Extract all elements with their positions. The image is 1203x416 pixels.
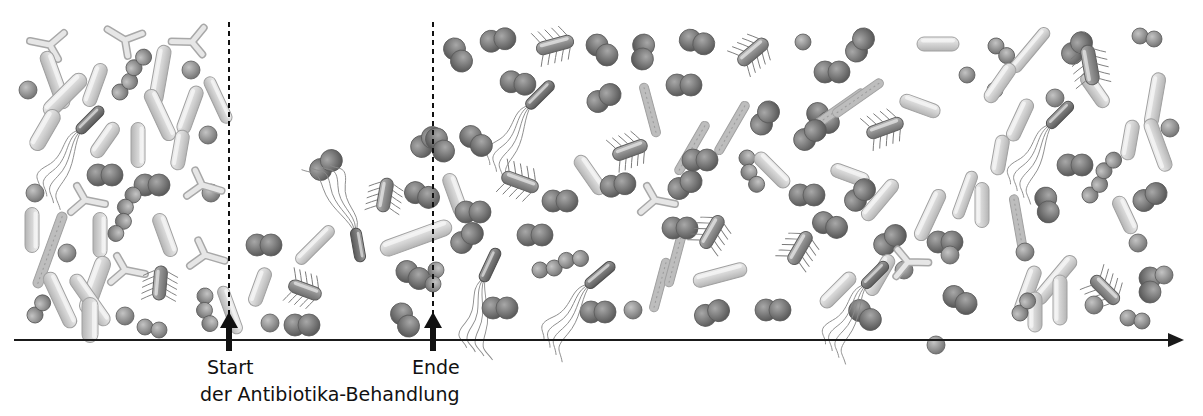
coccus-icon xyxy=(624,301,642,319)
diplococcus-icon xyxy=(939,281,981,318)
coccus-icon xyxy=(795,34,811,50)
fimbriated-bacterium-icon xyxy=(727,27,778,78)
bacillus-rod-icon xyxy=(131,123,145,168)
bacillus-rod-icon xyxy=(898,92,942,120)
diplococcus-icon xyxy=(583,79,625,116)
coccus-icon xyxy=(19,81,37,99)
bacillus-rod-icon xyxy=(1009,194,1027,250)
fimbriated-bacterium-icon xyxy=(365,175,406,216)
diplococcus-icon xyxy=(305,145,347,185)
bacillus-rod-icon xyxy=(202,75,234,125)
streptococcus-chain-icon xyxy=(1132,28,1162,47)
coccus-icon xyxy=(261,314,279,332)
diplococcus-icon xyxy=(446,218,488,258)
diplococcus-icon xyxy=(841,24,878,66)
coccus-icon xyxy=(58,244,76,262)
diplococcus-icon xyxy=(439,34,476,76)
diplococcus-icon xyxy=(755,299,791,321)
diplococcus-icon xyxy=(581,29,622,70)
streptococcus-chain-icon xyxy=(137,319,167,338)
bifidobacterium-icon xyxy=(111,256,145,282)
bacillus-rod-icon xyxy=(692,261,749,289)
streptococcus-chain-icon xyxy=(1120,310,1150,329)
diplococcus-icon xyxy=(789,184,825,206)
coccus-icon xyxy=(959,67,975,83)
fimbriated-bacterium-icon xyxy=(531,23,578,67)
coccus-icon xyxy=(927,336,945,354)
coccus-icon xyxy=(1129,234,1147,252)
fimbriated-bacterium-icon xyxy=(606,127,653,173)
bacillus-rod-icon xyxy=(378,218,454,259)
streptococcus-chain-icon xyxy=(106,184,144,245)
diplococcus-icon xyxy=(666,74,702,96)
diplococcus-icon xyxy=(455,201,491,223)
coccus-icon xyxy=(1155,266,1173,284)
treatment-caption: der Antibiotika-Behandlung xyxy=(200,383,460,405)
bacillus-rod-icon xyxy=(151,211,180,258)
bacillus-rod-icon xyxy=(1053,275,1067,325)
coccus-icon xyxy=(199,126,217,144)
diplococcus-icon xyxy=(1057,154,1093,176)
diplococcus-icon xyxy=(691,297,732,330)
diplococcus-icon xyxy=(809,209,850,242)
diplococcus-icon xyxy=(284,314,320,336)
end-arrow-icon xyxy=(424,312,442,351)
coccus-icon xyxy=(1085,296,1103,314)
bacillus-rod-icon xyxy=(917,37,959,51)
start-label: Start xyxy=(207,356,253,378)
fimbriated-bacterium-icon xyxy=(860,105,909,151)
fimbriated-bacterium-icon xyxy=(141,265,179,303)
bacillus-rod-icon xyxy=(293,223,337,267)
bacillus-rod-icon xyxy=(82,298,98,343)
coccus-icon xyxy=(116,307,134,325)
fimbriated-bacterium-icon xyxy=(282,267,327,312)
diplococcus-icon xyxy=(677,27,717,58)
bifidobacterium-icon xyxy=(101,22,142,58)
diplococcus-icon xyxy=(580,301,616,323)
bacillus-rod-icon xyxy=(27,107,63,154)
streptococcus-chain-icon xyxy=(25,292,53,327)
bacteria-diagram xyxy=(0,0,1203,416)
bifidobacterium-icon xyxy=(190,240,226,269)
coccus-icon xyxy=(182,61,200,79)
coccus-icon xyxy=(1016,243,1034,261)
diplococcus-icon xyxy=(386,299,423,341)
diplococcus-icon xyxy=(664,166,706,203)
diplococcus-icon xyxy=(517,224,553,246)
streptococcus-chain-icon xyxy=(530,245,591,283)
diplococcus-icon xyxy=(746,97,783,139)
diplococcus-icon xyxy=(844,295,886,335)
diplococcus-icon xyxy=(455,121,497,161)
bacillus-rod-icon xyxy=(93,213,107,258)
diplococcus-icon xyxy=(542,190,578,212)
bifidobacterium-icon xyxy=(71,186,105,212)
bacteria-layer xyxy=(19,22,1179,365)
bacillus-rod-icon xyxy=(247,266,274,308)
bacillus-rod-icon xyxy=(25,208,39,253)
bacillus-rod-icon xyxy=(1004,97,1036,144)
coccus-icon xyxy=(1046,89,1064,107)
coccus-icon xyxy=(941,246,959,264)
bacillus-rod-icon xyxy=(975,183,989,228)
bacillus-rod-icon xyxy=(88,120,122,161)
bacillus-rod-icon xyxy=(981,61,1018,106)
end-label: Ende xyxy=(412,356,460,378)
coccus-icon xyxy=(1161,119,1179,137)
coccus-icon xyxy=(26,184,44,202)
diplococcus-icon xyxy=(630,33,655,71)
diplococcus-icon xyxy=(814,61,850,83)
diplococcus-icon xyxy=(498,69,537,97)
bifidobacterium-icon xyxy=(170,28,208,60)
time-axis-arrowhead-icon xyxy=(1168,333,1184,347)
diplococcus-icon xyxy=(682,149,718,171)
diplococcus-icon xyxy=(598,171,637,199)
streptococcus-chain-icon xyxy=(193,287,219,334)
diplococcus-icon xyxy=(1033,185,1061,224)
diplococcus-icon xyxy=(87,164,123,186)
diplococcus-icon xyxy=(482,297,518,319)
bacillus-rod-icon xyxy=(713,100,751,156)
bacillus-rod-icon xyxy=(639,82,662,137)
diplococcus-icon xyxy=(478,26,517,54)
diplococcus-icon xyxy=(246,234,282,256)
diplococcus-icon xyxy=(401,179,442,212)
